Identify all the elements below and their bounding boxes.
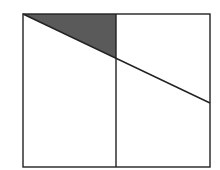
geometry-diagram <box>0 0 220 170</box>
